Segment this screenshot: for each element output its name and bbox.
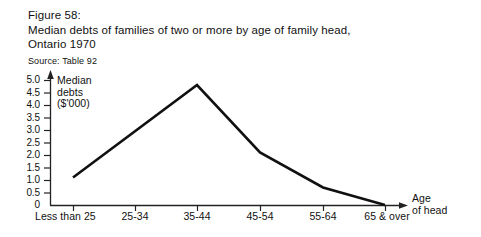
y-tick-label-2-5: 2.5 (14, 138, 40, 148)
x-tick-label-55-64: 55-64 (309, 210, 336, 222)
y-tick-label-0: 0 (14, 200, 40, 210)
y-tick-label-3-0: 3.0 (14, 125, 40, 135)
y-axis-arrow-icon (47, 70, 54, 79)
y-tick-label-5-0: 5.0 (14, 75, 40, 85)
y-tick-label-1-5: 1.5 (14, 163, 40, 173)
x-axis-label-line-1: Age (412, 193, 447, 205)
y-tick-label-2-0: 2.0 (14, 150, 40, 160)
y-tick-label-0-5: 0.5 (14, 188, 40, 198)
x-axis (50, 202, 408, 209)
y-axis-label-line-1: Median (57, 75, 92, 87)
y-tick-label-3-5: 3.5 (14, 113, 40, 123)
y-axis-label: Median debts ($'000) (57, 75, 92, 110)
x-tick-label-35-44: 35-44 (183, 210, 210, 222)
data-line-median-debts (73, 85, 385, 205)
chart-plot-area: 5.0 4.5 4.0 3.5 3.0 2.5 2.0 1.5 1.0 0.5 … (0, 0, 481, 237)
x-tick-label-45-54: 45-54 (246, 210, 273, 222)
y-axis-ticks (44, 81, 50, 194)
y-tick-label-4-0: 4.0 (14, 100, 40, 110)
y-axis (47, 70, 54, 206)
y-tick-label-4-5: 4.5 (14, 88, 40, 98)
x-tick-label-less-than-25: Less than 25 (35, 210, 96, 222)
y-tick-label-1-0: 1.0 (14, 175, 40, 185)
x-axis-label-line-2: of head (412, 205, 447, 217)
y-axis-label-line-3: ($'000) (57, 98, 92, 110)
x-axis-arrow-icon (399, 202, 408, 209)
figure-page: Figure 58: Median debts of families of t… (0, 0, 481, 237)
chart-svg (0, 0, 481, 237)
x-tick-label-25-34: 25-34 (121, 210, 148, 222)
x-tick-label-65-and-over: 65 & over (364, 210, 409, 222)
x-axis-label: Age of head (412, 193, 447, 216)
